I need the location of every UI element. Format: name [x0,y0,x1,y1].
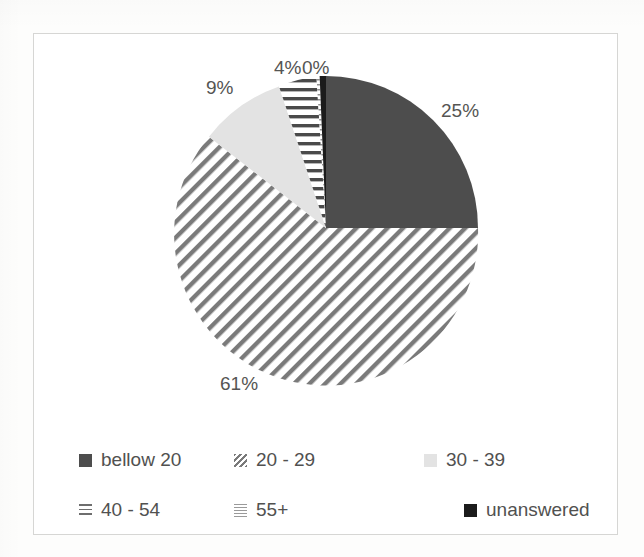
legend-label-30-39: 30 - 39 [446,449,505,471]
solid-black-square-icon [464,504,477,517]
legend-label-20-29: 20 - 29 [256,449,315,471]
legend-label-55-plus: 55+ [256,499,288,521]
data-label-20-29: 61% [220,373,258,395]
light-gray-square-icon [424,454,437,467]
solid-dark-square-icon [79,454,92,467]
legend-label-bellow-20: bellow 20 [101,449,181,471]
legend-label-40-54: 40 - 54 [101,499,160,521]
legend-row-2: 40 - 54 55+ unanswered [34,490,619,530]
chart-frame: 25% 61% 9% 4% 0% bellow 20 20 - 29 30 - … [33,33,618,535]
legend-item-55-plus[interactable]: 55+ [219,499,394,521]
pie-slice-bellow-20 [326,76,478,228]
data-label-40-54: 4% [274,57,301,79]
legend-item-30-39[interactable]: 30 - 39 [394,449,619,471]
legend-item-20-29[interactable]: 20 - 29 [219,449,394,471]
data-label-55-plus: 0% [302,57,329,79]
legend-item-unanswered[interactable]: unanswered [394,499,619,521]
legend-row-1: bellow 20 20 - 29 30 - 39 [34,440,619,480]
legend-item-bellow-20[interactable]: bellow 20 [34,449,219,471]
pie-plot-area: 25% 61% 9% 4% 0% [34,34,619,414]
legend-label-unanswered: unanswered [486,499,590,521]
data-label-bellow-20: 25% [441,100,479,122]
fine-dot-square-icon [234,504,247,517]
data-label-30-39: 9% [206,77,233,99]
diagonal-stripe-square-icon [234,454,247,467]
horizontal-stripe-square-icon [79,504,92,517]
pie-chart-graphic [34,34,619,414]
chart-legend: bellow 20 20 - 29 30 - 39 40 - 54 55+ [34,416,619,534]
legend-item-40-54[interactable]: 40 - 54 [34,499,219,521]
